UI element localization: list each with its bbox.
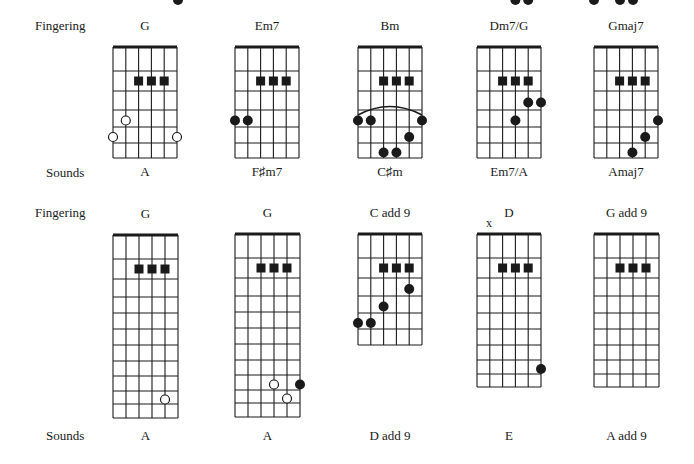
finger-dot-icon: [230, 116, 240, 126]
finger-dot-icon: [353, 318, 363, 328]
square-marker-icon: [283, 264, 292, 273]
finger-dot-icon: [404, 284, 414, 294]
square-marker-icon: [134, 77, 143, 86]
finger-dot-icon: [615, 0, 625, 5]
finger-dot-icon: [627, 148, 637, 158]
square-marker-icon: [498, 264, 507, 273]
finger-dot-icon: [391, 148, 401, 158]
square-marker-icon: [405, 77, 414, 86]
finger-dot-icon: [589, 0, 599, 5]
square-marker-icon: [392, 77, 401, 86]
square-marker-icon: [405, 264, 414, 273]
square-marker-icon: [628, 77, 637, 86]
square-marker-icon: [269, 77, 278, 86]
square-marker-icon: [642, 264, 651, 273]
open-circle-icon: [270, 380, 279, 389]
finger-dot-icon: [379, 148, 389, 158]
finger-dot-icon: [295, 380, 305, 390]
finger-dot-icon: [353, 116, 363, 126]
square-marker-icon: [498, 77, 507, 86]
square-marker-icon: [147, 77, 156, 86]
finger-dot-icon: [640, 132, 650, 142]
open-circle-icon: [283, 394, 292, 403]
finger-dot-icon: [536, 98, 546, 108]
open-circle-icon: [109, 133, 118, 142]
square-marker-icon: [256, 77, 265, 86]
finger-dot-icon: [523, 0, 533, 5]
square-marker-icon: [524, 77, 533, 86]
square-marker-icon: [641, 77, 650, 86]
finger-dot-icon: [417, 116, 427, 126]
square-marker-icon: [511, 77, 520, 86]
finger-dot-icon: [379, 302, 389, 312]
square-marker-icon: [524, 264, 533, 273]
square-marker-icon: [379, 77, 388, 86]
open-circle-icon: [173, 133, 182, 142]
square-marker-icon: [616, 264, 625, 273]
barre-arc-icon: [358, 107, 422, 116]
square-marker-icon: [511, 264, 520, 273]
finger-dot-icon: [536, 364, 546, 374]
finger-dot-icon: [510, 116, 520, 126]
square-marker-icon: [160, 77, 169, 86]
finger-dot-icon: [366, 116, 376, 126]
finger-dot-icon: [243, 116, 253, 126]
square-marker-icon: [392, 264, 401, 273]
square-marker-icon: [161, 265, 170, 274]
square-marker-icon: [615, 77, 624, 86]
square-marker-icon: [135, 265, 144, 274]
open-circle-icon: [161, 395, 170, 404]
finger-dot-icon: [523, 98, 533, 108]
finger-dot-icon: [628, 0, 638, 5]
finger-dot-icon: [653, 116, 663, 126]
square-marker-icon: [629, 264, 638, 273]
chord-diagrams: [0, 0, 694, 464]
finger-dot-icon: [510, 0, 520, 5]
finger-dot-icon: [173, 0, 183, 5]
finger-dot-icon: [404, 132, 414, 142]
square-marker-icon: [282, 77, 291, 86]
open-circle-icon: [121, 116, 130, 125]
square-marker-icon: [257, 264, 266, 273]
square-marker-icon: [379, 264, 388, 273]
finger-dot-icon: [366, 318, 376, 328]
square-marker-icon: [148, 265, 157, 274]
square-marker-icon: [270, 264, 279, 273]
